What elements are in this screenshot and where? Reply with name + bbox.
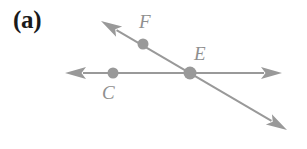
point-dot-f xyxy=(138,39,149,50)
panel-label: (a) xyxy=(13,7,41,32)
point-dot-e xyxy=(184,67,197,80)
point-label-e: E xyxy=(194,44,206,63)
geometry-figure-panel: (a) F E C xyxy=(0,0,307,149)
horizontal-line-right-arrowhead xyxy=(261,67,282,79)
diagonal-line-lower-right-arrowhead xyxy=(266,114,287,130)
geometry-diagram-canvas xyxy=(0,0,307,149)
diagonal-line-upper-left-arrowhead xyxy=(101,21,122,37)
horizontal-line-left-arrowhead xyxy=(65,67,86,79)
point-dot-c xyxy=(108,68,119,79)
point-label-c: C xyxy=(102,83,115,102)
point-label-f: F xyxy=(139,12,151,31)
